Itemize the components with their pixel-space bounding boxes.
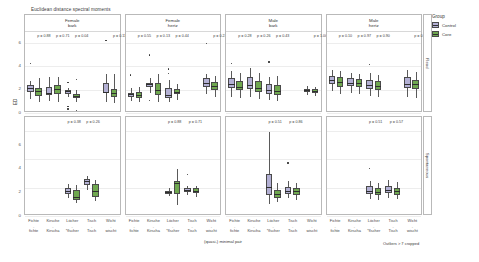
- outlier-point: [67, 82, 68, 83]
- p-value-label: p = 0.90: [376, 34, 389, 38]
- outlier-point: [287, 162, 288, 163]
- box-median: [404, 84, 410, 85]
- box-median: [266, 90, 272, 91]
- p-value-label: p = 0.10: [339, 34, 352, 38]
- p-value-label: p = 0.13: [157, 34, 170, 38]
- p-value-label: p = 0.57: [390, 120, 403, 124]
- gridline: [25, 131, 120, 132]
- x-tick-top: Kirsche: [247, 218, 260, 223]
- legend-label-core: Core: [442, 32, 451, 37]
- box-median: [356, 83, 362, 84]
- panel-canvas: p = 0.88p = 0.71: [126, 117, 221, 214]
- x-tick-bottom: *flscher: [367, 228, 380, 233]
- x-tick-top: Fichte: [229, 218, 240, 223]
- box-median: [347, 83, 353, 84]
- p-value-label: p = 0.88: [168, 120, 181, 124]
- x-tick-top: Kirsche: [348, 218, 361, 223]
- box-median: [293, 191, 299, 192]
- box-plot-box[interactable]: [266, 174, 272, 196]
- facet-panel: p = 0.51p = 0.57: [326, 116, 423, 215]
- box-median: [366, 191, 372, 192]
- row-strip-read: Read: [423, 14, 432, 112]
- box-median: [228, 84, 234, 85]
- legend-item-core[interactable]: Core: [432, 31, 478, 37]
- p-value-label: p = 0.26: [86, 120, 99, 124]
- gridline: [25, 159, 120, 160]
- x-tick-top: Löcher: [267, 218, 279, 223]
- legend-swatch-core: [432, 31, 439, 37]
- box-plot-box[interactable]: [266, 84, 272, 93]
- panel-canvas: p = 0.51p = 0.57: [327, 117, 422, 214]
- x-tick-bottom: Kirscha: [247, 228, 260, 233]
- box-plot-box[interactable]: [255, 81, 261, 92]
- facet-panel: p = 0.88p = 0.71: [125, 116, 222, 215]
- gridline: [226, 131, 321, 132]
- gridline: [226, 43, 321, 44]
- outlier-point: [76, 110, 77, 111]
- box-median: [274, 91, 280, 92]
- box-plot-box[interactable]: [404, 77, 410, 88]
- x-tick-top: Löcher: [368, 218, 380, 223]
- x-tick-bottom: Tisch: [87, 228, 96, 233]
- box-plot-box[interactable]: [236, 81, 242, 90]
- x-tick-top: Fichte: [129, 218, 140, 223]
- x-tick-bottom: fichte: [29, 228, 38, 233]
- box-median: [73, 197, 79, 198]
- facet-strip: Malehertz: [327, 15, 422, 32]
- outlier-point: [231, 63, 232, 64]
- p-value-label: p = 0.71: [189, 120, 202, 124]
- p-value-label: p = 0.71: [56, 34, 69, 38]
- y-axis-title: ED: [13, 99, 18, 105]
- panel-canvas: p = 0.10p = 0.97p = 0.90p = 0.96: [327, 31, 422, 111]
- box-median: [174, 183, 180, 184]
- x-tick-bottom: fichte: [129, 228, 138, 233]
- outlier-point: [67, 108, 68, 109]
- box-median: [329, 80, 335, 81]
- box-plot-box[interactable]: [27, 85, 33, 92]
- figure-title: Euclidean distance spectral moments: [31, 7, 111, 12]
- gridline: [327, 66, 422, 67]
- outlier-point: [168, 68, 169, 69]
- box-median: [65, 91, 71, 92]
- x-tick-bottom: *flscher: [267, 228, 280, 233]
- box-plot-box[interactable]: [247, 77, 253, 89]
- facet-panel: p = 0.38p = 0.26: [24, 116, 121, 215]
- box-median: [27, 88, 33, 89]
- p-value-label: p = 0.44: [175, 34, 188, 38]
- x-tick-top: Tisch: [288, 218, 297, 223]
- x-tick-top: Kirsche: [46, 218, 59, 223]
- x-tick-top: Wicht: [106, 218, 116, 223]
- box-plot-box[interactable]: [155, 83, 161, 95]
- box-median: [54, 89, 60, 90]
- box-median: [84, 181, 90, 182]
- box-median: [165, 95, 171, 96]
- x-tick-bottom: Kirscha: [348, 228, 361, 233]
- box-plot-box[interactable]: [73, 190, 79, 200]
- gridline: [126, 113, 221, 114]
- p-value-label: p = 0.97: [358, 34, 371, 38]
- facet-panel: Malebarkp = 0.28p = 0.26p = 0.43p = 1.00: [225, 14, 322, 112]
- x-tick-bottom: Kirscha: [147, 228, 160, 233]
- x-tick-bottom: Tisch: [187, 228, 196, 233]
- box-median: [184, 190, 190, 191]
- legend-item-control[interactable]: Control: [432, 22, 478, 28]
- outlier-point: [369, 64, 370, 65]
- box-median: [128, 94, 134, 95]
- x-tick-bottom: fichte: [330, 228, 339, 233]
- outlier-note: Outliers > 7 cropped: [383, 241, 419, 246]
- panel-canvas: p = 0.28p = 0.26p = 0.43p = 1.00: [226, 31, 321, 111]
- y-tick-label: 2: [14, 86, 21, 91]
- facet-row-read: Femalebarkp = 0.88p = 0.71p = 0.04p = 0.…: [24, 14, 422, 112]
- box-median: [412, 84, 418, 85]
- x-tick-top: Wicht: [206, 218, 216, 223]
- gridline: [25, 66, 120, 67]
- x-tick-top: Wicht: [407, 218, 417, 223]
- box-median: [165, 192, 171, 193]
- p-value-label: p = 0.55: [138, 34, 151, 38]
- legend: Group Control Core: [432, 14, 478, 40]
- outlier-point: [130, 74, 131, 75]
- outlier-point: [168, 73, 169, 74]
- x-tick-bottom: wischt: [306, 228, 317, 233]
- box-median: [65, 191, 71, 192]
- panel-canvas: p = 0.51p = 0.86: [226, 117, 321, 214]
